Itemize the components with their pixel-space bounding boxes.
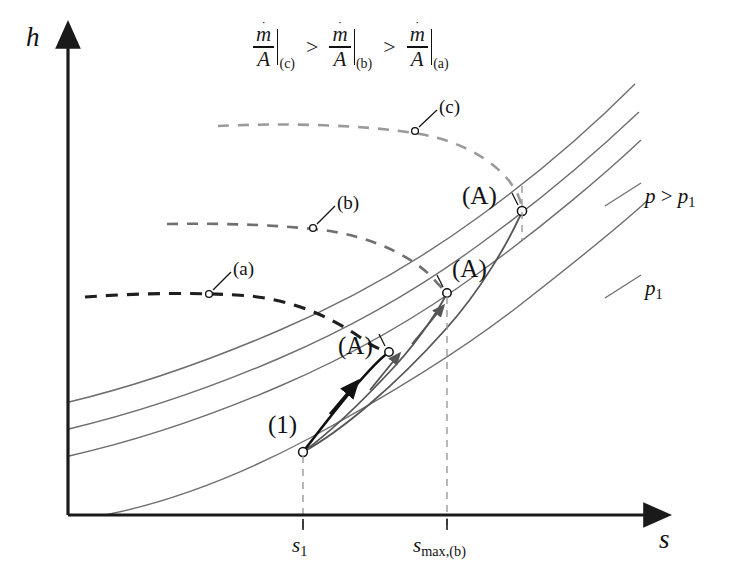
state-1-label: (1) <box>268 412 297 437</box>
tick-label-s1: s1 <box>292 535 307 558</box>
fraction-numerator: ˙ m <box>253 24 274 46</box>
marker-state-A-middle <box>443 289 451 297</box>
marker-curve-b <box>310 225 317 232</box>
entropy-symbol: s <box>413 533 421 557</box>
relation-symbol: > <box>656 184 678 208</box>
leader-p1 <box>605 275 641 298</box>
diagram-canvas <box>0 0 730 580</box>
leader-p-greater-p1 <box>605 183 641 206</box>
curve-c-label: (c) <box>439 97 460 116</box>
fraction-denominator: A <box>408 48 427 70</box>
process-1-to-A-a <box>303 353 388 452</box>
relation-symbol-1: > <box>306 34 318 60</box>
fraction-mdot-over-A: ˙ m A <box>407 24 428 70</box>
dot-accent-icon: ˙ <box>415 19 419 32</box>
marker-curve-a <box>206 291 213 298</box>
evaluation-bar-icon <box>354 29 355 65</box>
process-1-to-A-c <box>303 214 521 452</box>
state-A-middle-label: (A) <box>452 256 487 281</box>
fraction-numerator: ˙ m <box>407 24 428 46</box>
fanno-line-b <box>167 224 447 293</box>
pressure-symbol: p <box>645 184 656 208</box>
marker-state-1 <box>299 448 308 457</box>
pressure-reference-subscript: 1 <box>688 194 695 210</box>
state-A-upper-label: (A) <box>462 183 497 208</box>
state-A-lower-label: (A) <box>338 333 373 358</box>
process-paths <box>303 214 521 452</box>
fraction-numerator: ˙ m <box>329 24 350 46</box>
mass-flux-term-b: ˙ m A (b) <box>329 24 372 70</box>
evaluation-subscript: (c) <box>279 56 295 72</box>
marker-curve-c <box>412 128 419 135</box>
hs-diagram: h s ˙ m A (c) > ˙ m A <box>0 0 730 580</box>
entropy-subscript: 1 <box>300 543 307 559</box>
state-markers <box>299 206 527 456</box>
mass-flux-inequality: ˙ m A (c) > ˙ m A (b) > <box>253 24 449 70</box>
fraction-mdot-over-A: ˙ m A <box>329 24 350 70</box>
dot-accent-icon: ˙ <box>338 19 342 32</box>
tick-label-smax-b: smax,(b) <box>413 535 466 558</box>
process-1-to-A-b <box>303 295 446 452</box>
evaluation-subscript: (a) <box>433 56 449 72</box>
isobar-label-leaders <box>605 183 641 298</box>
curve-a-label: (a) <box>233 259 254 278</box>
axes <box>68 44 648 515</box>
mass-flux-term-c: ˙ m A (c) <box>253 24 295 70</box>
axis-ticks <box>303 519 447 530</box>
entropy-subscript: max,(b) <box>421 543 466 559</box>
isobar-label-p-greater-p1: p > p1 <box>645 186 695 209</box>
fraction-mdot-over-A: ˙ m A <box>253 24 274 70</box>
evaluation-subscript: (b) <box>356 56 372 72</box>
arrowhead-process-a <box>330 388 352 414</box>
y-axis-label: h <box>26 24 40 51</box>
marker-state-A-lower <box>385 348 393 356</box>
isobar-family <box>69 84 648 515</box>
curve-b-label: (b) <box>337 193 359 212</box>
evaluation-bar-icon <box>277 29 278 65</box>
leader-curve-a <box>213 272 231 290</box>
leader-curve-b <box>317 206 335 224</box>
pressure-reference-symbol: p <box>678 184 689 208</box>
evaluation-bar-icon <box>431 29 432 65</box>
pressure-symbol: p <box>645 276 656 300</box>
fraction-denominator: A <box>254 48 273 70</box>
isobar-p1 <box>105 200 648 515</box>
pressure-subscript: 1 <box>656 286 663 302</box>
isobar-2 <box>69 140 641 456</box>
dot-accent-icon: ˙ <box>261 19 265 32</box>
fraction-denominator: A <box>331 48 350 70</box>
isobar-label-p1: p1 <box>645 278 663 301</box>
entropy-symbol: s <box>292 533 300 557</box>
mass-flux-term-a: ˙ m A (a) <box>407 24 449 70</box>
leader-curve-c <box>419 110 437 127</box>
relation-symbol-2: > <box>383 34 395 60</box>
x-axis-label: s <box>659 526 670 553</box>
